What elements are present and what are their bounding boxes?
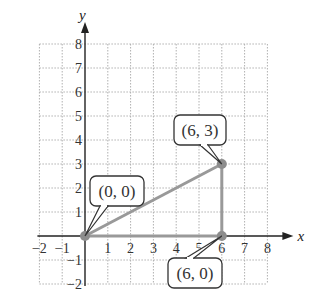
y-tick-label: 2	[75, 181, 82, 196]
x-axis-label: x	[296, 228, 304, 244]
callout-label: (0, 0)	[99, 182, 136, 201]
x-axis-arrow-icon	[282, 232, 293, 240]
y-tick-label: 7	[75, 61, 82, 76]
y-tick-label: 8	[75, 37, 82, 52]
x-tick-label: 1	[104, 241, 111, 256]
y-tick-label: 5	[75, 109, 82, 124]
y-tick-label: −2	[67, 277, 82, 292]
x-tick-label: 2	[127, 241, 134, 256]
callout-label: (6, 3)	[182, 121, 219, 140]
y-tick-label: 3	[75, 157, 82, 172]
point-callouts: (0, 0)(6, 3)(6, 0)	[85, 115, 226, 288]
x-tick-label: 6	[218, 241, 225, 256]
y-axis-label: y	[77, 7, 86, 23]
y-axis-arrow-icon	[81, 22, 89, 33]
callout-pointer	[186, 236, 222, 258]
x-tick-label: 8	[264, 241, 271, 256]
coordinate-plane: xy −2−112345678−2−112345678 (0, 0)(6, 3)…	[0, 0, 315, 298]
x-tick-label: 3	[150, 241, 157, 256]
callout-pointer	[200, 145, 222, 164]
x-tick-label: −2	[32, 241, 47, 256]
callout-0: (0, 0)	[85, 176, 144, 236]
y-tick-label: −1	[67, 253, 82, 268]
y-tick-label: 6	[75, 85, 82, 100]
y-tick-label: 1	[75, 205, 82, 220]
x-tick-label: 4	[173, 241, 180, 256]
callout-label: (6, 0)	[177, 264, 214, 283]
x-tick-label: 7	[241, 241, 248, 256]
callout-1: (6, 3)	[174, 115, 226, 164]
y-tick-label: 4	[75, 133, 82, 148]
